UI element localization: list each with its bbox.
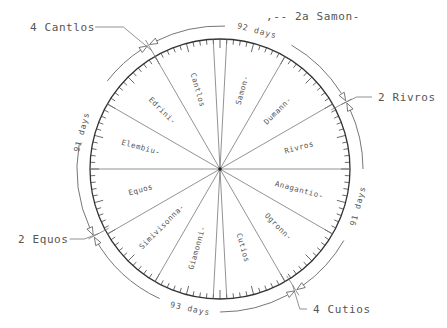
rim-tick — [123, 253, 127, 256]
rim-tick — [304, 72, 307, 76]
month-spoke — [213, 169, 220, 299]
quarter-length-label: 93 days — [169, 300, 211, 317]
rim-tick — [173, 286, 175, 291]
rim-tick — [128, 77, 134, 83]
month-label: Cutios — [235, 232, 252, 263]
rim-tick — [144, 64, 147, 68]
rim-tick — [167, 283, 169, 288]
rim-tick — [128, 255, 134, 261]
rim-tick — [246, 291, 247, 296]
rim-tick — [288, 60, 291, 64]
rim-tick — [271, 50, 273, 55]
rim-tick — [306, 77, 312, 83]
month-label: Equos — [127, 182, 154, 197]
rim-tick — [99, 214, 104, 216]
rim-tick — [331, 110, 335, 112]
rim-tick — [313, 82, 317, 85]
rim-tick — [104, 226, 108, 228]
quarter-arrow-icon — [347, 103, 353, 111]
rim-tick — [337, 200, 346, 202]
quarter-marker-label: 4 Cutios — [313, 303, 371, 316]
quarter-arrow-icon — [94, 237, 101, 245]
rim-tick — [167, 50, 169, 55]
month-label: Elembiu- — [120, 138, 161, 157]
center-hub — [218, 167, 222, 171]
rim-tick — [206, 293, 207, 298]
quarter-arrow-icon — [286, 291, 294, 298]
quarter-arc — [77, 144, 90, 229]
rim-tick — [331, 226, 335, 228]
rim-tick — [161, 280, 163, 284]
month-label: Samon- — [234, 74, 251, 105]
rim-tick — [259, 45, 261, 50]
quarter-arc — [350, 109, 363, 169]
quarter-length-label: 91 days — [72, 111, 91, 153]
rim-tick — [293, 64, 296, 68]
rim-tick — [339, 208, 344, 210]
rim-tick — [115, 93, 119, 96]
rim-tick — [344, 155, 349, 156]
rim-tick — [96, 208, 101, 210]
rim-tick — [325, 98, 329, 101]
rim-tick — [342, 142, 347, 143]
rim-tick — [133, 72, 136, 76]
rim-tick — [265, 48, 267, 53]
rim-tick — [206, 40, 207, 45]
rim-tick — [144, 270, 147, 274]
quarter-length-label: 91 days — [349, 185, 368, 227]
rim-tick — [111, 237, 115, 240]
quarter-arrow-icon — [139, 46, 147, 53]
rim-tick — [334, 116, 339, 118]
rim-tick — [240, 41, 241, 46]
month-label: Giamonni- — [186, 225, 207, 271]
rim-tick — [277, 280, 279, 284]
quarter-arc — [292, 45, 342, 93]
rim-tick — [186, 286, 188, 295]
month-label: Rivros — [283, 139, 314, 155]
rim-tick — [304, 262, 307, 266]
rim-tick — [94, 135, 103, 137]
quarter-arc — [220, 295, 287, 312]
quarter-length-label: 92 days — [236, 21, 278, 40]
rim-tick — [180, 45, 182, 50]
quarter-markers: 4 Cantlos2 Rivros4 Cutios2 Equos — [18, 21, 436, 316]
rim-tick — [251, 286, 253, 295]
rim-tick — [337, 214, 342, 216]
rim-tick — [233, 293, 234, 298]
rim-tick — [344, 182, 349, 183]
rim-tick — [180, 288, 182, 293]
quarter-marker-label: 2 Rivros — [378, 91, 436, 104]
rim-tick — [259, 288, 261, 293]
rim-tick — [271, 283, 273, 288]
rim-tick — [99, 122, 104, 124]
rim-tick — [321, 242, 325, 245]
rim-tick — [200, 41, 201, 46]
rim-tick — [173, 48, 175, 53]
rim-tick — [325, 237, 329, 240]
rim-tick — [161, 53, 163, 57]
rim-tick — [200, 292, 201, 297]
rim-tick — [321, 93, 325, 96]
month-spoke — [213, 39, 220, 169]
month-label: Simivisonna- — [137, 202, 186, 251]
rim-tick — [133, 262, 136, 266]
rim-tick — [111, 98, 115, 101]
rim-tick — [313, 253, 317, 256]
rim-tick — [334, 220, 339, 222]
quarter-arrow-icon — [297, 283, 305, 290]
intercalary-label: ,-- 2a Samon- — [266, 10, 360, 23]
month-label: Dumann- — [262, 95, 293, 126]
rim-tick — [115, 242, 119, 245]
quarter-arc — [95, 238, 160, 298]
rim-tick — [299, 266, 302, 270]
rim-tick — [94, 200, 103, 202]
month-label: Anagantio- — [274, 179, 325, 201]
rim-tick — [138, 266, 141, 270]
rim-tick — [251, 43, 253, 52]
rim-tick — [317, 248, 321, 251]
rim-tick — [91, 155, 96, 156]
quarter-marker-label: 4 Cantlos — [30, 21, 95, 34]
calendar-wheel-diagram: Samon-Dumann-RivrosAnagantio-Ogronn-Cuti… — [0, 0, 447, 328]
rim-tick — [119, 248, 123, 251]
rim-tick — [233, 40, 234, 45]
